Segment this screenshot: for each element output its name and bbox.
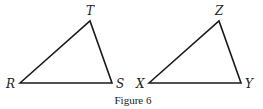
vertex-label-r: R bbox=[5, 77, 15, 91]
triangle-rst-shape bbox=[20, 21, 112, 83]
figure-canvas: R T S X Z Y Figure 6 bbox=[0, 0, 263, 109]
figure-caption: Figure 6 bbox=[115, 94, 152, 106]
triangle-rst: R T S bbox=[5, 4, 124, 91]
vertex-label-y: Y bbox=[245, 77, 254, 91]
vertex-label-x: X bbox=[135, 77, 145, 91]
triangle-xyz: X Z Y bbox=[135, 4, 254, 91]
vertex-label-s: S bbox=[116, 77, 124, 91]
vertex-label-t: T bbox=[86, 4, 95, 18]
vertex-label-z: Z bbox=[214, 4, 224, 18]
triangle-xyz-shape bbox=[149, 21, 241, 83]
